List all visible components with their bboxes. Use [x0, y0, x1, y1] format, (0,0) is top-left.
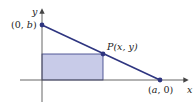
diagram: y x (0, b) P(x, y) (a, 0): [0, 0, 196, 107]
p-point: [101, 52, 106, 57]
inscribed-rectangle: [42, 54, 103, 80]
p-label: P(x, y): [106, 41, 138, 52]
x-intercept-label: (a, 0): [148, 84, 173, 95]
y-axis-label: y: [31, 6, 38, 17]
y-intercept-label: (0, b): [11, 19, 37, 30]
x-axis-label: x: [187, 84, 193, 95]
x-intercept-point: [158, 78, 163, 83]
y-intercept-point: [40, 23, 45, 28]
